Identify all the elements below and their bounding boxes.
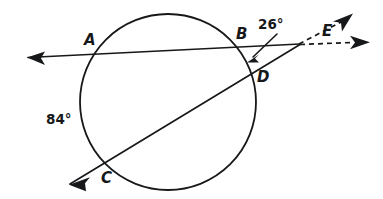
arrowhead-dashed-upper-right [333,14,353,32]
arc-measure-label-84: 84° [46,113,72,127]
secant-line-cde [70,45,300,185]
point-label-a: A [84,33,96,48]
dashed-ray-upper-right [299,21,343,44]
dashed-ray-right [300,43,352,45]
point-label-d: D [257,70,269,85]
arrowhead-secant-abe-left [27,52,45,65]
circle-shape [80,14,256,190]
arrowhead-angle-26-leader [247,55,259,63]
arrowhead-dashed-right [350,36,370,49]
point-label-b: B [236,27,247,42]
geometry-figure: A B C D E 84° 26° [0,0,383,199]
arrowhead-secant-cde-lower-left [69,177,90,191]
point-label-e: E [322,24,332,39]
point-label-c: C [101,171,112,186]
angle-measure-label-26: 26° [258,18,284,32]
